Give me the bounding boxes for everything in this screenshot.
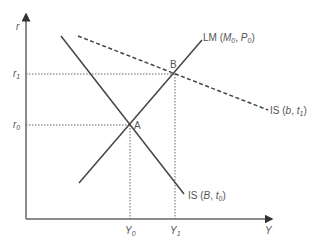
is-shifted-label: IS (b, t1) [270,105,307,117]
tick-y1: Y1 [170,225,181,237]
tick-r0: r0 [13,119,20,131]
is-original-label: IS (B, t0) [188,190,226,202]
tick-y0: Y0 [125,225,136,237]
is-curve-original [61,36,184,194]
x-axis-label: Y [265,225,273,236]
is-lm-diagram: r Y r1 r0 Y0 Y1 A B LM (M0, P0) IS (b, t… [0,0,310,247]
point-a-label: A [134,120,141,131]
tick-r1: r1 [13,68,20,80]
lm-curve [79,40,202,183]
lm-label: LM (M0, P0) [203,32,255,44]
y-axis-label: r [16,21,20,32]
point-b-label: B [170,59,177,70]
